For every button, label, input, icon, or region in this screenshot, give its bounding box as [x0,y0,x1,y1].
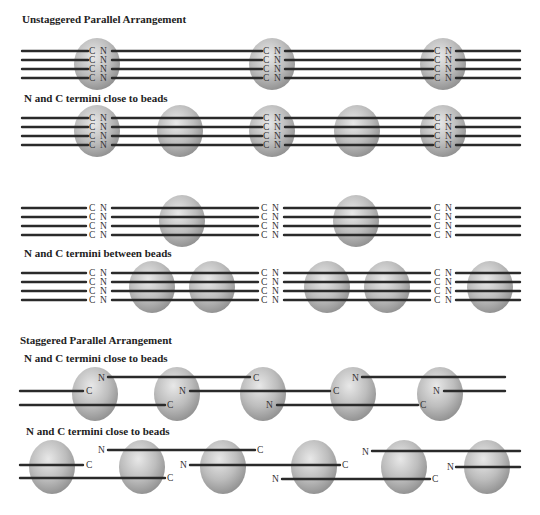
svg-text:C: C [434,295,440,305]
row3-termini-between-single: CN CN CN CN CN CN CN CN CN CN CN CN [22,195,520,247]
svg-text:C: C [434,140,440,150]
svg-text:C: C [420,400,426,410]
svg-text:C: C [89,140,95,150]
svg-text:C: C [434,73,440,83]
bead [129,261,513,313]
svg-text:N: N [98,373,105,383]
svg-text:N: N [445,295,452,305]
svg-text:N: N [272,295,279,305]
svg-text:N: N [180,460,187,470]
svg-text:C: C [86,460,92,470]
svg-text:C: C [263,140,269,150]
svg-text:C: C [89,295,95,305]
svg-text:N: N [362,447,369,457]
svg-text:N: N [272,474,279,484]
svg-text:N: N [100,73,107,83]
svg-text:C: C [86,386,92,396]
svg-text:N: N [179,386,186,396]
svg-text:N: N [266,400,273,410]
svg-text:N: N [100,295,107,305]
svg-text:N: N [352,373,359,383]
row4-termini-between-double: CN CN CN CN CN CN CN CN CN CN CN CN [22,261,520,313]
svg-text:C: C [434,230,440,240]
svg-text:C: C [89,73,95,83]
svg-text:C: C [89,230,95,240]
strands [20,450,520,479]
svg-text:N: N [433,386,440,396]
svg-text:C: C [167,473,173,483]
bead [72,367,463,421]
svg-text:N: N [445,73,452,83]
bead [159,195,379,247]
svg-text:C: C [432,474,438,484]
peptide-bead-diagram: CN CN CN CN CN CN CN CN CN CN CN CN [0,0,540,515]
svg-text:N: N [274,73,281,83]
svg-text:N: N [272,230,279,240]
svg-text:C: C [253,373,259,383]
svg-text:N: N [98,445,105,455]
row2-termini-close: CN CN CN CN CN CN CN CN CN CN CN CN [22,105,520,157]
svg-text:N: N [445,140,452,150]
svg-text:N: N [100,230,107,240]
bead [74,105,466,157]
svg-text:N: N [447,462,454,472]
svg-text:C: C [257,445,263,455]
bead [74,38,466,90]
row6-staggered-spaced: NC N C NC N C NC [20,440,520,494]
svg-text:C: C [263,73,269,83]
row1-unstaggered: CN CN CN CN CN CN CN CN CN CN CN CN [22,38,520,90]
svg-text:N: N [445,230,452,240]
svg-text:N: N [274,140,281,150]
svg-text:C: C [342,460,348,470]
svg-text:N: N [100,140,107,150]
svg-text:C: C [261,295,267,305]
row5-staggered-close: NC N C NC N C NC [20,367,505,421]
svg-text:C: C [333,386,339,396]
svg-text:C: C [167,400,173,410]
svg-text:C: C [261,230,267,240]
